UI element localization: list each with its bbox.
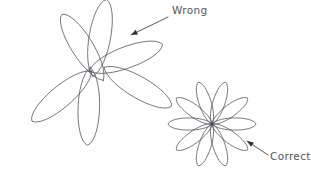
left-flower-petal-2: [88, 0, 113, 76]
label-wrong: Wrong: [172, 4, 208, 16]
arrow-head-wrong: [131, 30, 138, 35]
right-flower-petal-3: [210, 124, 227, 166]
left-flower-petal-5: [78, 67, 100, 145]
left-flower-wrong: [32, 0, 172, 145]
left-flower-petal-4: [104, 66, 172, 108]
right-flower-petal-8: [196, 82, 213, 124]
annotation-layer: WrongCorrect: [131, 4, 311, 162]
figure-canvas: WrongCorrect: [0, 0, 311, 174]
arrow-head-correct: [247, 141, 254, 147]
left-flower-petal-1: [60, 14, 104, 80]
rose-curve-figure: WrongCorrect: [0, 0, 311, 174]
right-flower-petal-4: [196, 124, 213, 166]
right-flower-petal-9: [210, 82, 227, 124]
label-correct: Correct: [270, 150, 311, 162]
right-flower-correct: [168, 82, 256, 166]
